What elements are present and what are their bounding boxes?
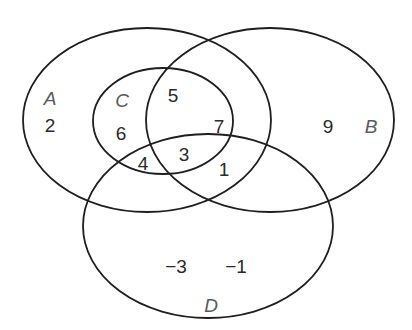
set-c-label: C (115, 91, 129, 110)
region-value-a-c: 6 (116, 124, 127, 143)
set-a-label: A (44, 89, 57, 108)
venn-ellipses (0, 0, 412, 330)
region-value-d-only-left: −3 (165, 257, 187, 276)
set-d-label: D (204, 296, 218, 315)
region-value-b-only: 9 (323, 117, 334, 136)
region-value-a-b-c-d: 3 (179, 145, 190, 164)
region-value-a-only: 2 (45, 116, 56, 135)
region-value-a-b-c-right: 7 (214, 117, 225, 136)
region-value-a-c-d: 4 (138, 154, 149, 173)
region-value-a-b-c-upper: 5 (168, 86, 179, 105)
set-b-label: B (365, 117, 378, 136)
region-value-d-only-right: −1 (225, 257, 247, 276)
set-c-ellipse (93, 68, 233, 174)
venn-diagram: A B C D 2 6 5 7 4 3 1 9 −3 −1 (0, 0, 412, 330)
set-b-ellipse (146, 28, 394, 212)
region-value-a-b-d: 1 (219, 160, 230, 179)
